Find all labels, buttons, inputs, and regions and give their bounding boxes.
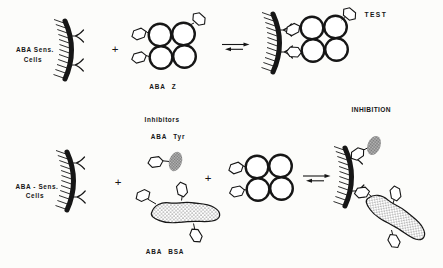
aba-sens-cells-bottom: ABA - Sens. Cells bbox=[16, 151, 86, 211]
hexagon-hapten-icon bbox=[389, 185, 401, 201]
hexagon-hapten-icon bbox=[227, 161, 244, 175]
four-circle-cluster-icon bbox=[246, 155, 293, 201]
test-complex bbox=[262, 6, 359, 72]
hexagon-hapten-icon bbox=[131, 51, 148, 64]
aba-sens-cells-bottom-label-line1: ABA - Sens. bbox=[16, 183, 59, 190]
bound-aba-bsa-molecule bbox=[354, 185, 430, 250]
inhibition-complex bbox=[334, 134, 431, 250]
aba-bsa-molecule: ABA BSA bbox=[134, 181, 220, 255]
cell-membrane-icon bbox=[334, 147, 352, 207]
tyrosine-stippled-oval bbox=[166, 150, 184, 173]
inhibition-label: INHIBITION bbox=[352, 106, 392, 113]
cell-membrane-icon bbox=[56, 151, 74, 211]
top-row-reaction: ABA Sens. Cells + ABA Z bbox=[16, 6, 387, 90]
hexagon-hapten-icon bbox=[286, 47, 301, 57]
tyrosine-stippled-oval bbox=[364, 134, 383, 157]
immunoassay-diagram: ABA Sens. Cells + ABA Z bbox=[0, 0, 443, 268]
plus-sign: + bbox=[205, 172, 212, 184]
equilibrium-arrows-icon bbox=[222, 43, 250, 52]
test-label: TEST bbox=[365, 11, 388, 18]
aba-sens-cells-bottom-label-line2: Cells bbox=[26, 192, 44, 199]
hexagon-hapten-icon bbox=[176, 181, 189, 198]
aba-bsa-label: ABA BSA bbox=[146, 248, 185, 255]
hexagon-hapten-icon bbox=[190, 10, 208, 27]
aba-sens-cells: ABA Sens. Cells bbox=[16, 20, 83, 80]
four-circle-cluster-icon bbox=[301, 16, 348, 62]
aba-z-conjugate: ABA Z bbox=[130, 10, 207, 90]
aba-tyr-molecule: ABA Tyr bbox=[147, 133, 185, 173]
aba-sens-cells-label-line2: Cells bbox=[24, 56, 42, 63]
aba-z-conjugate-bottom bbox=[227, 155, 292, 201]
four-circle-cluster-icon bbox=[149, 23, 196, 69]
hexagon-hapten-icon bbox=[284, 22, 302, 38]
aba-z-label: ABA Z bbox=[149, 83, 176, 90]
cell-membrane-icon bbox=[54, 20, 72, 80]
inhibitors-heading: Inhibitors bbox=[145, 116, 180, 123]
hexagon-hapten-icon bbox=[229, 185, 246, 198]
bound-aba-tyr-molecule bbox=[349, 134, 384, 162]
cell-membrane-icon bbox=[262, 13, 280, 73]
bsa-stippled-blob bbox=[151, 201, 220, 224]
bottom-row-reaction: Inhibitors ABA - Sens. Cells + ABA Tyr A… bbox=[16, 106, 431, 255]
hexagon-hapten-icon bbox=[188, 227, 204, 245]
plus-sign: + bbox=[112, 43, 119, 55]
hexagon-hapten-icon bbox=[130, 27, 147, 41]
immunoassay-diagram-page: ABA Sens. Cells + ABA Z bbox=[0, 0, 443, 268]
aba-sens-cells-label-line1: ABA Sens. bbox=[16, 46, 54, 53]
aba-tyr-label: ABA Tyr bbox=[151, 133, 186, 141]
hexagon-hapten-icon bbox=[386, 232, 402, 250]
hexagon-hapten-icon bbox=[134, 188, 152, 203]
equilibrium-arrows-icon bbox=[303, 174, 331, 183]
hexagon-hapten-icon bbox=[354, 187, 370, 199]
plus-sign: + bbox=[115, 176, 122, 188]
hexagon-hapten-icon bbox=[147, 156, 163, 168]
